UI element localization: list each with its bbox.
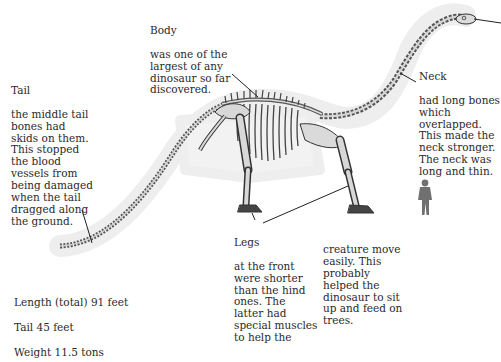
- front-leg: [340, 140, 374, 213]
- dimensions-stats: Length (total) 91 feet Tail 45 feet Weig…: [14, 283, 128, 362]
- legs-annotation-title: Legs: [234, 237, 317, 249]
- tail-annotation-title: Tail: [11, 85, 93, 97]
- legs-annotation: Legs at the front were shorter than the …: [234, 225, 317, 344]
- neck-annotation-title: Neck: [419, 71, 500, 83]
- legs-leader-line-front: [263, 186, 348, 223]
- neck-annotation-text: had long bones which overlapped. This ma…: [419, 94, 500, 177]
- legs-annotation-continued-text: creature move easily. This probably help…: [323, 243, 402, 326]
- legs-leader-line-hind: [252, 213, 255, 220]
- human-silhouette-icon: [418, 180, 432, 215]
- stat-length: Length (total) 91 feet: [14, 296, 128, 309]
- body-annotation: Body was one of the largest of any dinos…: [150, 13, 230, 96]
- stat-weight: Weight 11.5 tons: [14, 346, 128, 359]
- head-leader-line: [474, 19, 501, 23]
- stat-tail: Tail 45 feet: [14, 321, 128, 334]
- skeleton-halo: [60, 14, 465, 246]
- body-annotation-title: Body: [150, 25, 230, 37]
- tail-annotation-text: the middle tail bones had skids on them.…: [11, 108, 93, 227]
- skull: [456, 14, 476, 24]
- legs-annotation-continued: creature move easily. This probably help…: [323, 232, 402, 327]
- legs-annotation-text: at the front were shorter than the hind …: [234, 260, 317, 343]
- tail-annotation: Tail the middle tail bones had skids on …: [11, 73, 93, 228]
- neck-annotation: Neck had long bones which overlapped. Th…: [419, 59, 500, 178]
- body-annotation-text: was one of the largest of any dinosaur s…: [150, 48, 230, 96]
